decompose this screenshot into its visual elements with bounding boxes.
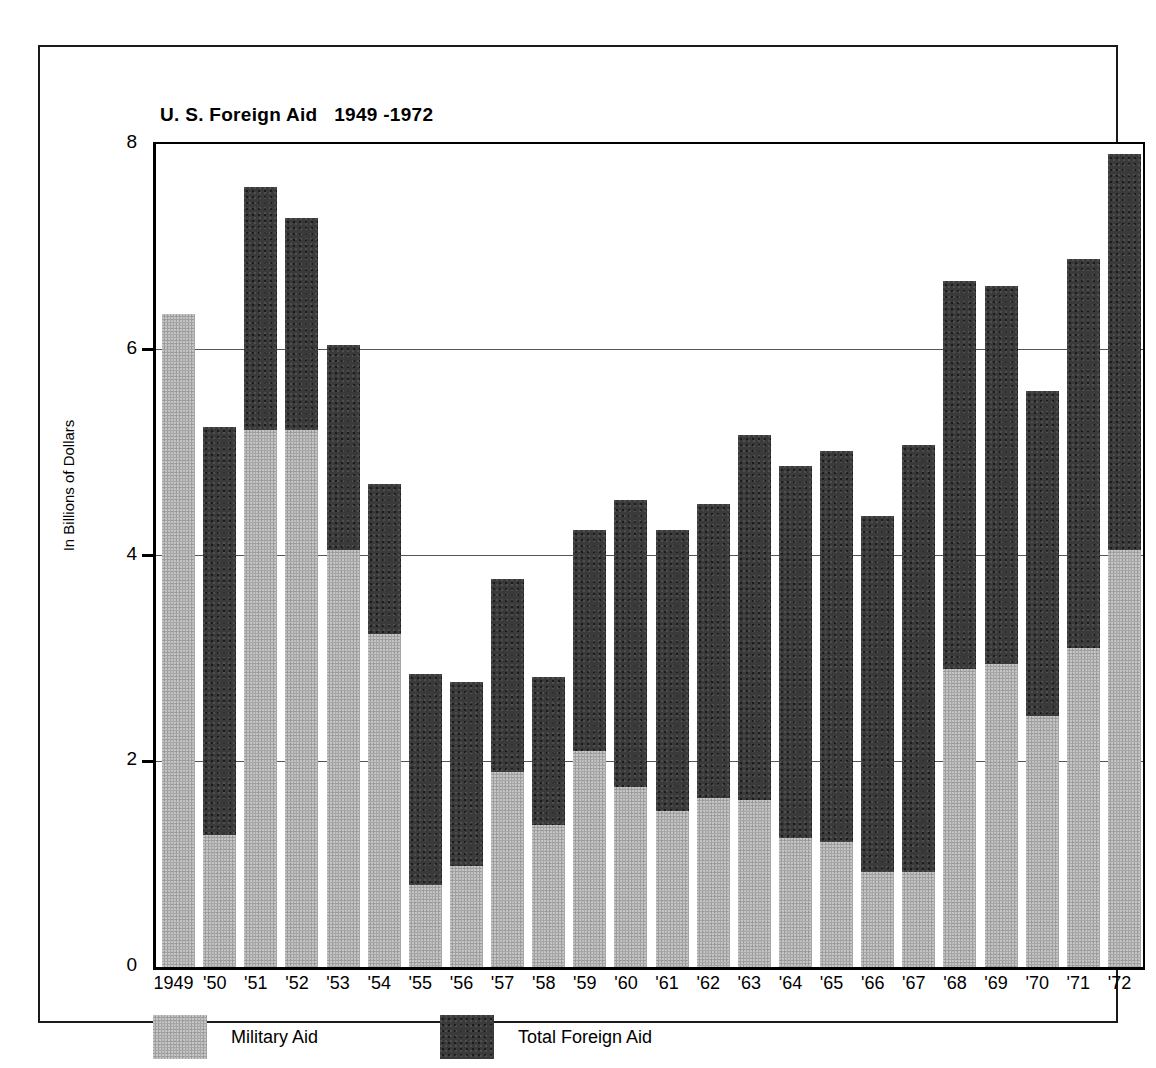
bar-segment-military-aid[interactable] xyxy=(985,664,1018,967)
x-axis-tick-label: '64 xyxy=(770,972,811,994)
x-axis-tick-label: '51 xyxy=(235,972,276,994)
bar-group[interactable] xyxy=(327,144,360,967)
bar-segment-military-aid[interactable] xyxy=(779,838,812,967)
bar-segment-military-aid[interactable] xyxy=(738,800,771,967)
bar-group[interactable] xyxy=(532,144,565,967)
bar-segment-military-aid[interactable] xyxy=(697,798,730,967)
y-axis-tick-mark xyxy=(142,348,156,351)
x-axis-tick-label: '60 xyxy=(605,972,646,994)
bar-segment-military-aid[interactable] xyxy=(1026,716,1059,967)
x-axis-tick-label: '57 xyxy=(482,972,523,994)
legend-swatch-military xyxy=(153,1015,207,1059)
y-axis-tick-label: 6 xyxy=(97,338,137,357)
x-axis-tick-label: 1949 xyxy=(153,972,194,994)
x-axis-tick-label: '62 xyxy=(688,972,729,994)
bar-segment-military-aid[interactable] xyxy=(1108,550,1141,967)
bar-segment-military-aid[interactable] xyxy=(614,787,647,967)
bar-segment-military-aid[interactable] xyxy=(902,872,935,967)
x-axis-tick-label: '71 xyxy=(1058,972,1099,994)
x-axis-tick-label: '53 xyxy=(318,972,359,994)
x-axis-tick-label: '50 xyxy=(194,972,235,994)
y-axis-tick-label: 8 xyxy=(97,132,137,151)
bar-group[interactable] xyxy=(203,144,236,967)
bar-group[interactable] xyxy=(409,144,442,967)
x-axis-tick-label: '54 xyxy=(359,972,400,994)
bar-group[interactable] xyxy=(244,144,277,967)
bar-segment-military-aid[interactable] xyxy=(450,866,483,967)
x-axis-tick-label: '56 xyxy=(441,972,482,994)
bar-group[interactable] xyxy=(779,144,812,967)
plot-area xyxy=(153,142,1145,970)
bar-group[interactable] xyxy=(820,144,853,967)
chart-page: U. S. Foreign Aid 1949 -1972 02468 In Bi… xyxy=(0,0,1156,1068)
bar-segment-military-aid[interactable] xyxy=(327,550,360,967)
x-axis-tick-label: '52 xyxy=(276,972,317,994)
bar-segment-military-aid[interactable] xyxy=(285,430,318,967)
bar-group[interactable] xyxy=(614,144,647,967)
legend-label: Military Aid xyxy=(231,1027,318,1048)
bar-group[interactable] xyxy=(450,144,483,967)
bar-group[interactable] xyxy=(985,144,1018,967)
y-axis-tick-label: 4 xyxy=(97,544,137,563)
bar-group[interactable] xyxy=(861,144,894,967)
plot-inner xyxy=(156,144,1143,967)
bar-group[interactable] xyxy=(285,144,318,967)
y-axis-tick-labels: 02468 xyxy=(97,142,137,965)
chart-outer-frame: U. S. Foreign Aid 1949 -1972 02468 In Bi… xyxy=(38,45,1118,1023)
bar-group[interactable] xyxy=(738,144,771,967)
page-title: U. S. Foreign Aid 1949 -1972 xyxy=(160,104,433,126)
x-axis-tick-label: '66 xyxy=(852,972,893,994)
x-axis-tick-label: '63 xyxy=(729,972,770,994)
bar-segment-military-aid[interactable] xyxy=(368,634,401,967)
x-axis-tick-label: '65 xyxy=(811,972,852,994)
y-axis-tick-mark xyxy=(142,760,156,763)
bar-segment-military-aid[interactable] xyxy=(1067,648,1100,967)
bar-group[interactable] xyxy=(368,144,401,967)
y-axis-title: In Billions of Dollars xyxy=(60,356,77,616)
bar-group[interactable] xyxy=(491,144,524,967)
y-axis-tick-label: 2 xyxy=(97,749,137,768)
x-axis-tick-labels: 1949'50'51'52'53'54'55'56'57'58'59'60'61… xyxy=(153,972,1143,1002)
legend-label: Total Foreign Aid xyxy=(518,1027,652,1048)
x-axis-tick-label: '69 xyxy=(976,972,1017,994)
bar-segment-military-aid[interactable] xyxy=(162,314,195,967)
bar-segment-military-aid[interactable] xyxy=(244,430,277,967)
bar-segment-military-aid[interactable] xyxy=(573,751,606,967)
bar-group[interactable] xyxy=(162,144,195,967)
x-axis-tick-label: '55 xyxy=(400,972,441,994)
bar-group[interactable] xyxy=(697,144,730,967)
bar-group[interactable] xyxy=(1108,144,1141,967)
bar-group[interactable] xyxy=(1026,144,1059,967)
bar-segment-military-aid[interactable] xyxy=(532,825,565,967)
bar-segment-military-aid[interactable] xyxy=(409,885,442,967)
bar-segment-military-aid[interactable] xyxy=(943,669,976,967)
bar-segment-military-aid[interactable] xyxy=(203,835,236,967)
bar-group[interactable] xyxy=(1067,144,1100,967)
bar-segment-military-aid[interactable] xyxy=(656,811,689,967)
legend-swatch-total xyxy=(440,1015,494,1059)
bar-group[interactable] xyxy=(573,144,606,967)
x-axis-tick-label: '59 xyxy=(564,972,605,994)
x-axis-tick-label: '70 xyxy=(1017,972,1058,994)
x-axis-tick-label: '67 xyxy=(893,972,934,994)
legend-item-military[interactable]: Military Aid xyxy=(153,1015,318,1059)
x-axis-tick-label: '68 xyxy=(934,972,975,994)
bar-segment-military-aid[interactable] xyxy=(861,872,894,967)
legend-item-total[interactable]: Total Foreign Aid xyxy=(440,1015,652,1059)
x-axis-tick-label: '72 xyxy=(1099,972,1140,994)
x-axis-tick-label: '58 xyxy=(523,972,564,994)
bar-segment-military-aid[interactable] xyxy=(491,772,524,967)
bar-group[interactable] xyxy=(902,144,935,967)
x-axis-tick-label: '61 xyxy=(647,972,688,994)
bar-group[interactable] xyxy=(656,144,689,967)
bar-group[interactable] xyxy=(943,144,976,967)
y-axis-tick-label: 0 xyxy=(97,955,137,974)
bar-segment-military-aid[interactable] xyxy=(820,842,853,968)
y-axis-tick-mark xyxy=(142,554,156,557)
